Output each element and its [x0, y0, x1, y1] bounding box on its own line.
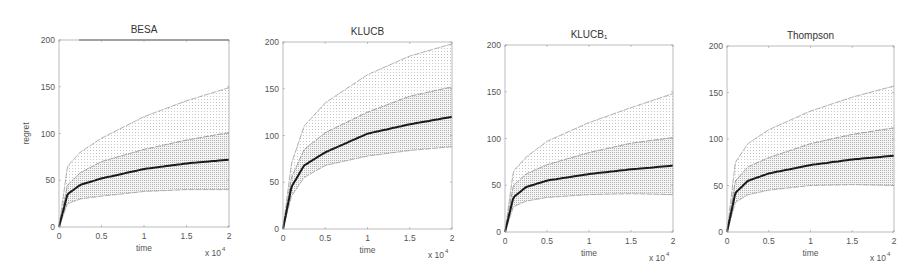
y-tick-label: 150: [265, 84, 279, 94]
y-tick-label: 200: [487, 40, 501, 50]
x-axis-exponent: 4: [666, 251, 670, 257]
x-axis-exponent: 4: [222, 246, 226, 252]
x-tick-label: 0: [725, 236, 730, 246]
x-tick-label: 1.5: [404, 233, 416, 243]
x-tick-label: 1: [365, 233, 370, 243]
y-tick-label: 150: [41, 82, 55, 92]
x-axis-exponent: 4: [887, 251, 891, 257]
y-tick-label: 50: [714, 181, 724, 191]
x-axis-multiplier: x 10: [205, 248, 221, 258]
y-tick-label: 0: [718, 227, 723, 237]
y-axis-label: regret: [21, 122, 31, 145]
y-tick-label: 150: [709, 88, 723, 98]
chart-title: BESA: [131, 24, 158, 35]
x-axis-multiplier: x 10: [649, 253, 665, 263]
y-tick-label: 100: [265, 131, 279, 141]
x-axis-label: time: [802, 248, 818, 258]
chart-panel-3: 05010015020000.511.52Thompsontimex 104: [709, 30, 897, 263]
y-tick-label: 0: [496, 227, 501, 237]
x-tick-label: 2: [227, 231, 232, 241]
chart-title: Thompson: [787, 30, 834, 41]
chart-panel-1: 05010015020000.511.52KLUCBtimex 104: [265, 26, 455, 260]
x-tick-label: 2: [892, 236, 897, 246]
y-tick-label: 200: [709, 41, 723, 51]
x-tick-label: 0.5: [96, 231, 108, 241]
y-tick-label: 100: [709, 134, 723, 144]
x-axis-multiplier: x 10: [870, 253, 886, 263]
x-tick-label: 0.5: [319, 233, 331, 243]
chart-title: KLUCB₁: [571, 29, 608, 40]
x-axis-multiplier: x 10: [428, 250, 444, 260]
y-tick-label: 150: [487, 87, 501, 97]
chart-title: KLUCB: [351, 26, 385, 37]
y-tick-label: 50: [492, 180, 502, 190]
regret-charts: 05010015020000.511.52BESAtimex 104regret…: [0, 0, 924, 276]
y-tick-label: 50: [270, 177, 280, 187]
x-tick-label: 0: [503, 236, 508, 246]
y-tick-label: 100: [487, 134, 501, 144]
y-tick-label: 0: [274, 224, 279, 234]
y-tick-label: 100: [41, 129, 55, 139]
chart-panel-2: 05010015020000.511.52KLUCB₁timex 104: [487, 29, 676, 263]
y-tick-label: 200: [265, 37, 279, 47]
x-axis-label: time: [359, 245, 375, 255]
x-axis-label: time: [136, 243, 152, 253]
y-tick-label: 200: [41, 35, 55, 45]
x-tick-label: 1: [808, 236, 813, 246]
x-tick-label: 1: [142, 231, 147, 241]
x-tick-label: 2: [450, 233, 455, 243]
y-tick-label: 0: [50, 222, 55, 232]
y-tick-label: 50: [46, 175, 56, 185]
x-tick-label: 0.5: [763, 236, 775, 246]
x-tick-label: 1: [587, 236, 592, 246]
x-tick-label: 0: [57, 231, 62, 241]
x-tick-label: 1.5: [181, 231, 193, 241]
x-tick-label: 1.5: [625, 236, 637, 246]
chart-panel-0: 05010015020000.511.52BESAtimex 104regret: [21, 24, 232, 258]
x-tick-label: 1.5: [846, 236, 858, 246]
x-axis-label: time: [581, 248, 597, 258]
x-tick-label: 2: [671, 236, 676, 246]
x-tick-label: 0.5: [541, 236, 553, 246]
x-axis-exponent: 4: [445, 248, 449, 254]
x-tick-label: 0: [281, 233, 286, 243]
